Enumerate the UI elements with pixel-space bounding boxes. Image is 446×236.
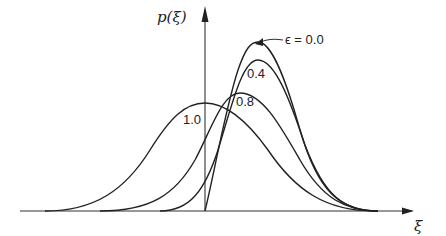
annotation-eps-0-0: ϵ = 0.0 [285,32,324,47]
curve-eps-1-0 [45,103,375,211]
curve-eps-0-0 [205,42,378,211]
label-eps-0-4: 0.4 [247,66,265,81]
density-figure: p(ξ) ξ ϵ = 0.0 0.4 0.8 1.0 [0,0,446,236]
curve-eps-0-4 [160,60,378,211]
x-axis-arrow-icon [402,208,414,215]
curve-eps-0-8 [100,93,378,211]
label-eps-1-0: 1.0 [183,112,201,127]
y-axis-label: p(ξ) [157,8,187,26]
y-axis-arrow-icon [202,6,209,22]
x-axis-label: ξ [414,217,423,235]
label-eps-0-8: 0.8 [236,94,254,109]
